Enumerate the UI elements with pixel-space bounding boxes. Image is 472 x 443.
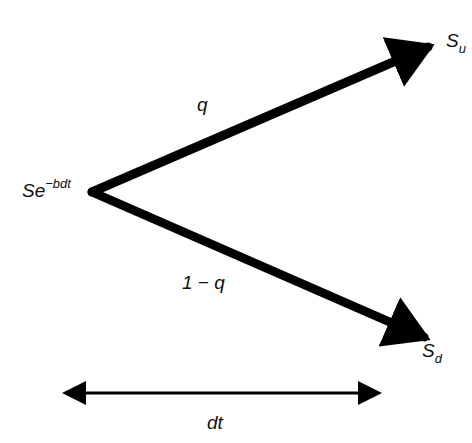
up-probability-label: q: [197, 94, 208, 116]
root-base: Se: [22, 180, 45, 201]
down-base: S: [422, 340, 435, 361]
up-branch-arrow: [92, 47, 428, 192]
up-subscript: u: [459, 41, 466, 56]
root-exponent: −bdt: [45, 176, 71, 191]
up-base: S: [446, 30, 459, 51]
root-node-label: Se−bdt: [22, 178, 71, 202]
binomial-tree-diagram: Se−bdt Su Sd q 1 − q dt: [0, 0, 472, 443]
down-subscript: d: [435, 351, 442, 366]
time-step-label: dt: [207, 412, 223, 434]
up-node-label: Su: [446, 30, 466, 55]
down-node-label: Sd: [422, 340, 442, 365]
down-probability-label: 1 − q: [182, 272, 225, 294]
diagram-arrows: [0, 0, 472, 443]
down-branch-arrow: [92, 192, 424, 337]
